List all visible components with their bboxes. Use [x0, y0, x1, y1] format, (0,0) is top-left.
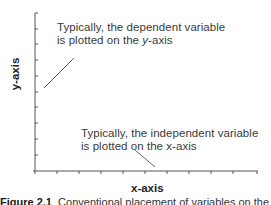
dependent-leader-line — [44, 58, 74, 88]
caption-text: Conventional placement of variables on t… — [58, 196, 271, 205]
figure-label: Figure 2.1 — [0, 196, 52, 205]
y-axis-label: y-axis — [9, 57, 21, 91]
annotation-line-1: Typically, the independent variable — [81, 127, 258, 140]
annotation-line-2: is plotted on the x-axis — [81, 140, 258, 153]
dependent-variable-annotation: Typically, the dependent variable is plo… — [57, 21, 225, 47]
figure-caption: Figure 2.1 Conventional placement of var… — [0, 196, 271, 205]
independent-variable-annotation: Typically, the independent variable is p… — [81, 127, 258, 153]
x-axis-label: x-axis — [131, 182, 164, 194]
axes-diagram: y-axis x-axis Typically, the dependent v… — [0, 0, 271, 205]
annotation-line-2: is plotted on the y-axis — [57, 34, 225, 47]
annotation-line-1: Typically, the dependent variable — [57, 21, 225, 34]
